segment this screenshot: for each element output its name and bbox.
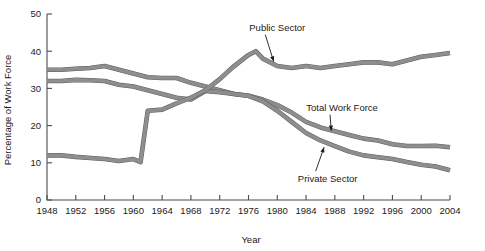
y-tick-label: 10: [30, 157, 41, 168]
annotation-label: Public Sector: [249, 22, 305, 33]
x-axis-title: Year: [241, 234, 260, 245]
y-tick-label: 50: [30, 8, 41, 19]
annotation-arrowhead: [320, 147, 324, 153]
x-tick-label: 1968: [180, 205, 201, 216]
x-tick-label: 1948: [36, 205, 57, 216]
annotation-label: Total Work Force: [306, 102, 378, 113]
chart-axes: [47, 14, 450, 200]
x-tick-label: 1972: [209, 205, 230, 216]
x-tick-label: 1956: [94, 205, 115, 216]
chart-container: 0102030405019481952195619601964196819721…: [0, 0, 485, 251]
series-private-sector: [47, 80, 450, 170]
x-tick-label: 1980: [267, 205, 288, 216]
x-tick-label: 1976: [238, 205, 259, 216]
x-tick-label: 2000: [411, 205, 432, 216]
x-tick-label: 1960: [123, 205, 144, 216]
x-tick-label: 1952: [65, 205, 86, 216]
x-tick-label: 1964: [152, 205, 173, 216]
y-tick-label: 20: [30, 120, 41, 131]
line-chart: 0102030405019481952195619601964196819721…: [0, 0, 485, 251]
y-tick-label: 40: [30, 46, 41, 57]
y-axis-title: Percentage of Work Force: [2, 55, 13, 166]
chart-tick-marks: [47, 14, 450, 200]
chart-series-lines: [47, 51, 450, 170]
x-tick-label: 2004: [439, 205, 460, 216]
x-tick-label: 1992: [353, 205, 374, 216]
x-tick-label: 1988: [324, 205, 345, 216]
x-tick-label: 1984: [296, 205, 317, 216]
x-tick-label: 1996: [382, 205, 403, 216]
annotation-label: Private Sector: [298, 173, 358, 184]
chart-tick-labels: 0102030405019481952195619601964196819721…: [30, 8, 460, 216]
series-total-work-force: [47, 66, 450, 147]
y-tick-label: 0: [36, 194, 41, 205]
y-tick-label: 30: [30, 83, 41, 94]
